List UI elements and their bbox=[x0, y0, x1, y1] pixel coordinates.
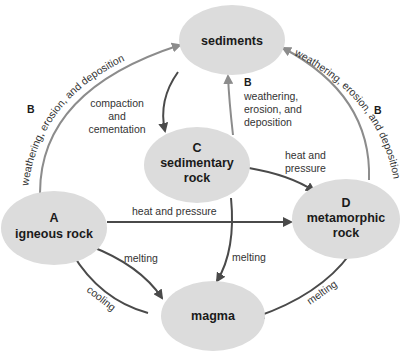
rock-cycle-diagram: sediments C sedimentary rock A igneous r… bbox=[0, 0, 407, 351]
metamorphic-rock-label-line1: metamorphic bbox=[307, 211, 386, 225]
metamorphic-rock-label-line2: rock bbox=[333, 226, 359, 240]
igneous-rock-label: igneous rock bbox=[15, 227, 93, 241]
sedimentary-rock-label-line2: rock bbox=[184, 171, 210, 185]
label-sedimentary-to-sediments-line3: deposition bbox=[244, 116, 292, 128]
label-sedimentary-to-magma: melting bbox=[232, 251, 266, 263]
label-cementation: cementation bbox=[88, 123, 145, 135]
label-sedimentary-to-metamorphic-line1: heat and bbox=[285, 149, 326, 161]
label-igneous-to-sediments-letter: B bbox=[27, 103, 35, 115]
edge-sediments-to-sedimentary bbox=[163, 72, 178, 131]
sedimentary-rock-letter: C bbox=[192, 141, 201, 155]
label-sedimentary-to-sediments-letter: B bbox=[244, 76, 252, 88]
label-igneous-to-metamorphic: heat and pressure bbox=[132, 205, 217, 217]
magma-label: magma bbox=[191, 309, 236, 323]
edge-sedimentary-to-sediments bbox=[228, 76, 233, 135]
edge-sedimentary-to-magma bbox=[217, 198, 232, 281]
node-magma: magma bbox=[161, 281, 265, 351]
sediments-label: sediments bbox=[201, 34, 263, 48]
label-sedimentary-to-sediments-line2: erosion, and bbox=[244, 103, 302, 115]
igneous-rock-letter: A bbox=[49, 211, 58, 225]
node-metamorphic-rock: D metamorphic rock bbox=[292, 179, 400, 259]
label-and: and bbox=[108, 110, 126, 122]
sedimentary-rock-label-line1: sedimentary bbox=[160, 156, 234, 170]
label-igneous-to-magma: melting bbox=[124, 252, 158, 264]
node-sediments: sediments bbox=[179, 5, 285, 75]
diagram-canvas: sediments C sedimentary rock A igneous r… bbox=[0, 0, 407, 351]
label-metamorphic-to-sediments-letter: B bbox=[374, 104, 382, 116]
label-sedimentary-to-metamorphic-line2: pressure bbox=[285, 162, 326, 174]
node-igneous-rock: A igneous rock bbox=[1, 191, 107, 265]
label-compaction: compaction bbox=[90, 97, 144, 109]
label-sedimentary-to-sediments-line1: weathering, bbox=[243, 90, 298, 102]
node-sedimentary-rock: C sedimentary rock bbox=[144, 127, 250, 203]
metamorphic-rock-letter: D bbox=[341, 196, 350, 210]
